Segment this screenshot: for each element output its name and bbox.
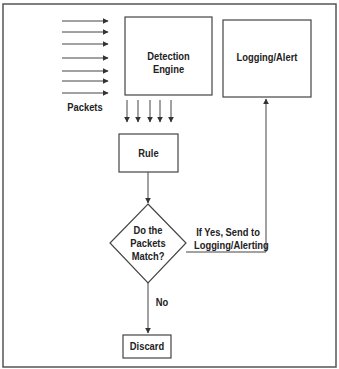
packets-label: Packets: [64, 101, 107, 114]
detection-engine-label: Detection Engine: [132, 50, 206, 76]
yes-label-line-1: If Yes, Send to: [194, 226, 262, 239]
no-label: No: [152, 296, 172, 309]
yes-label-line-2: Logging/Alerting: [194, 239, 262, 252]
rule-label: Rule: [123, 147, 173, 160]
decision-label: Do the Packets Match?: [123, 224, 174, 263]
decision-line-3: Match?: [123, 250, 174, 263]
engine-to-rule-arrows: [127, 100, 171, 122]
discard-label: Discard: [127, 340, 168, 353]
decision-line-1: Do the: [123, 224, 174, 237]
packet-arrows: [62, 21, 108, 93]
yes-label: If Yes, Send to Logging/Alerting: [194, 226, 262, 252]
decision-line-2: Packets: [123, 237, 174, 250]
logging-alert-label: Logging/Alert: [230, 51, 305, 64]
